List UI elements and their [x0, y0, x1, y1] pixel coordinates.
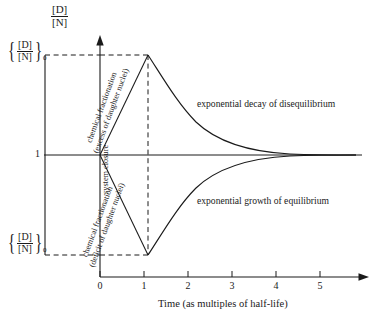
annotation-growth-curve: exponential growth of equilibrium — [197, 196, 329, 206]
y-axis-arrowhead — [96, 35, 103, 46]
upper-denominator: [N] — [17, 52, 33, 63]
lower-denominator: [N] — [17, 244, 33, 255]
x-tick-label-5: 5 — [313, 281, 327, 291]
y-label-lower-initial-ratio: { [D] [N] } 0 — [6, 232, 46, 255]
annotation-decay-curve: exponential decay of disequilibrium — [197, 99, 335, 109]
x-tick-label-3: 3 — [225, 281, 239, 291]
lower-subscript: 0 — [43, 247, 47, 255]
upper-open-brace: { — [8, 42, 15, 60]
x-axis — [100, 273, 369, 280]
y-tick-label-one: 1 — [35, 149, 40, 159]
x-axis-arrowhead — [359, 273, 370, 280]
x-axis-ticks — [100, 271, 320, 277]
x-tick-label-1: 1 — [137, 281, 151, 291]
figure-root: [D] [N] { [D] [N] } 0 { [D] [N] } 0 1 0 … — [0, 0, 377, 320]
lower-close-brace: } — [35, 234, 42, 252]
upper-subscript: 0 — [43, 55, 47, 63]
plot-canvas — [0, 0, 377, 320]
y-axis-title: [D] [N] — [51, 4, 68, 29]
x-axis-title: Time (as multiples of half-life) — [158, 299, 288, 310]
x-tick-label-4: 4 — [269, 281, 283, 291]
x-tick-label-0: 0 — [93, 281, 107, 291]
caption-system-closure: system closure — [101, 145, 111, 194]
y-label-upper-initial-ratio: { [D] [N] } 0 — [6, 40, 46, 63]
x-tick-label-2: 2 — [181, 281, 195, 291]
y-axis-title-denominator: [N] — [51, 17, 68, 29]
lower-open-brace: { — [8, 234, 15, 252]
upper-close-brace: } — [35, 42, 42, 60]
y-axis-title-numerator: [D] — [51, 4, 68, 17]
